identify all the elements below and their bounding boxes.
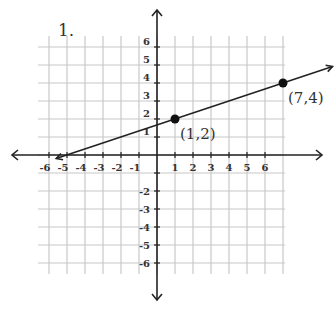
x-tick-label: -6 (39, 162, 50, 173)
coordinate-plane: -6-5-4-3-2-1123456654321-2-3-4-5-6 (1,2)… (0, 0, 335, 312)
y-tick-label: 3 (143, 90, 150, 101)
y-tick-label: -4 (139, 222, 150, 233)
data-point-label: (1,2) (180, 125, 216, 143)
x-tick-label: 2 (190, 162, 197, 173)
x-tick-label: 5 (244, 162, 251, 173)
y-tick-label: 5 (143, 54, 150, 65)
x-tick-label: -1 (129, 162, 140, 173)
y-tick-label: -2 (139, 186, 150, 197)
x-tick-label: -2 (111, 162, 122, 173)
x-tick-label: 6 (262, 162, 269, 173)
x-tick-label: -4 (75, 162, 86, 173)
data-line: (1,2)(7,4) (56, 65, 332, 160)
y-tick-label: 4 (143, 72, 150, 83)
data-point (171, 115, 180, 124)
y-tick-label: -3 (139, 204, 150, 215)
y-tick-label: 2 (143, 108, 150, 119)
x-tick-label: 4 (226, 162, 233, 173)
x-tick-label: 3 (208, 162, 215, 173)
y-tick-label: 6 (143, 36, 150, 47)
data-point-label: (7,4) (288, 89, 324, 107)
y-tick-label: -5 (139, 240, 150, 251)
plotted-line (56, 67, 332, 159)
y-tick-label: -6 (139, 258, 150, 269)
x-tick-label: -5 (57, 162, 68, 173)
data-point (279, 79, 288, 88)
x-tick-label: 1 (172, 162, 179, 173)
x-tick-label: -3 (93, 162, 104, 173)
